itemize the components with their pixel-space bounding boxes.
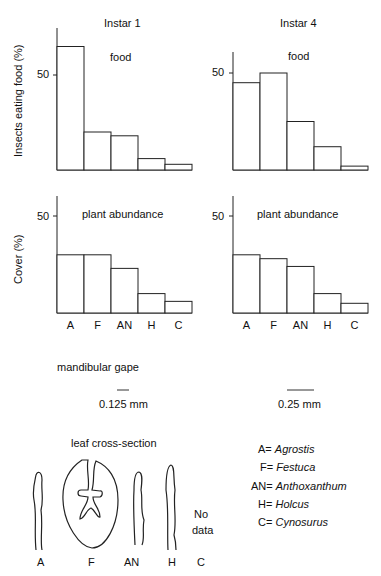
subtitle-food-1: food xyxy=(110,51,131,63)
leaf-icon-holcus xyxy=(166,465,176,550)
ytick-50-food1: 50 xyxy=(37,68,49,80)
leaf-section-title: leaf cross-section xyxy=(71,437,157,449)
legend-item-h: H= Holcus xyxy=(258,498,309,510)
leaf-label-a: A xyxy=(37,556,44,568)
xtick-h: H xyxy=(324,319,332,331)
bar-an xyxy=(111,136,138,170)
xtick-c: C xyxy=(175,319,183,331)
leaf-label-an: AN xyxy=(124,556,139,568)
panel-title-instar4: Instar 4 xyxy=(280,17,317,29)
xtick-c: C xyxy=(351,319,359,331)
ytick-50-food4: 50 xyxy=(212,66,224,78)
xtick-a: A xyxy=(67,319,75,331)
bar-h xyxy=(138,159,165,170)
bar-a xyxy=(233,255,260,313)
no-data-line2: data xyxy=(192,524,213,536)
bar-f xyxy=(260,259,287,313)
bar-f xyxy=(84,132,111,170)
leaf-label-f: F xyxy=(88,556,95,568)
bar-a xyxy=(57,255,84,313)
bar-c xyxy=(165,164,192,170)
bar-f xyxy=(84,255,111,313)
ylabel-cover: Cover (%) xyxy=(12,234,24,284)
bar-h xyxy=(138,294,165,313)
legend-item-f: F= Festuca xyxy=(260,461,315,473)
ylabel-insects: Insects eating food (%) xyxy=(12,44,24,157)
panel-title-instar1: Instar 1 xyxy=(104,17,141,29)
bar-c xyxy=(341,166,368,170)
bar-a xyxy=(233,83,260,170)
xtick-an: AN xyxy=(117,319,132,331)
bar-f xyxy=(260,73,287,170)
bar-c xyxy=(165,301,192,313)
xtick-f: F xyxy=(94,319,101,331)
gape-instar1: 0.125 mm xyxy=(99,398,148,410)
bar-h xyxy=(314,147,341,170)
bar-an xyxy=(287,266,314,313)
legend-item-c: C= Cynosurus xyxy=(258,516,328,528)
no-data-line1: No xyxy=(194,508,208,520)
legend-item-an: AN= Anthoxanthum xyxy=(251,480,347,492)
mandibular-gape-label: mandibular gape xyxy=(57,361,139,373)
subtitle-food-4: food xyxy=(288,50,309,62)
leaf-label-h: H xyxy=(168,556,176,568)
subtitle-plant-4: plant abundance xyxy=(257,208,338,220)
bar-an xyxy=(111,268,138,313)
leaf-icon-agrostis xyxy=(33,472,42,550)
xtick-an: AN xyxy=(293,319,308,331)
ytick-50-plant1: 50 xyxy=(37,210,49,222)
leaf-icon-festuca xyxy=(63,460,118,548)
legend-item-a: A= Agrostis xyxy=(258,443,315,455)
bar-a xyxy=(57,47,84,171)
ytick-50-plant4: 50 xyxy=(212,210,224,222)
xtick-a: A xyxy=(243,319,251,331)
leaf-icon-anthoxanthum xyxy=(134,472,144,545)
subtitle-plant-1: plant abundance xyxy=(82,208,163,220)
leaf-label-c: C xyxy=(197,556,205,568)
xtick-f: F xyxy=(270,319,277,331)
bar-an xyxy=(287,122,314,171)
xtick-h: H xyxy=(148,319,156,331)
bar-c xyxy=(341,303,368,313)
gape-instar4: 0.25 mm xyxy=(278,398,321,410)
bar-h xyxy=(314,294,341,313)
